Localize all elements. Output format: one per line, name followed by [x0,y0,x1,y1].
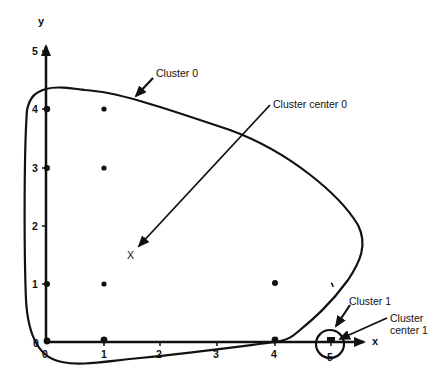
data-point [44,165,50,171]
cluster-center-1-label-line1: Cluster [390,312,424,324]
cluster-center-0-label: Cluster center 0 [273,98,347,110]
data-point [101,106,106,111]
y-tick-4: 4 [32,103,38,115]
x-axis-label: x [372,335,379,347]
stray-mark [331,283,333,287]
data-points [44,106,335,345]
cluster-0-label: Cluster 0 [156,67,198,79]
y-tick-2: 2 [32,220,38,232]
cluster-1-label: Cluster 1 [349,295,391,307]
y-tick-5: 5 [32,45,38,57]
arrow-cluster-center-1 [340,318,387,339]
x-tick-2: 2 [156,348,162,360]
arrow-cluster-1 [336,305,350,326]
data-point [101,165,106,170]
cluster-center-1-label-line2: center 1 [390,324,428,336]
data-point [44,338,51,345]
arrow-cluster-0 [136,78,153,96]
data-point [101,281,106,286]
x-tick-4: 4 [271,348,277,360]
y-tick-1: 1 [32,278,38,290]
data-point [272,280,278,286]
y-axis: y [38,15,46,343]
x-tick-1: 1 [101,348,107,360]
arrow-cluster-center-0 [139,105,270,246]
y-tick-3: 3 [32,162,38,174]
data-point [44,106,50,112]
data-point [44,281,50,287]
data-point [327,337,335,343]
y-axis-label: y [38,15,45,27]
cluster-center-0-marker: X [127,249,134,261]
data-point [101,337,108,344]
cluster-0-boundary [25,87,363,363]
cluster-diagram: y x 5 4 3 2 1 0 0 1 2 3 4 5 [0,0,441,383]
